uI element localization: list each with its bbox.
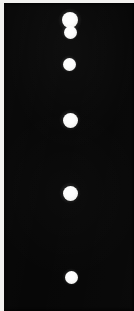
- white-spot: [64, 26, 77, 39]
- image-viewport: [0, 0, 134, 311]
- dark-field: [4, 3, 134, 311]
- field-edge-vignette: [4, 3, 134, 311]
- white-spot: [63, 58, 76, 71]
- white-spot: [63, 113, 78, 128]
- film-grain-overlay: [4, 3, 134, 311]
- white-spot: [63, 186, 78, 201]
- white-spot: [65, 271, 78, 284]
